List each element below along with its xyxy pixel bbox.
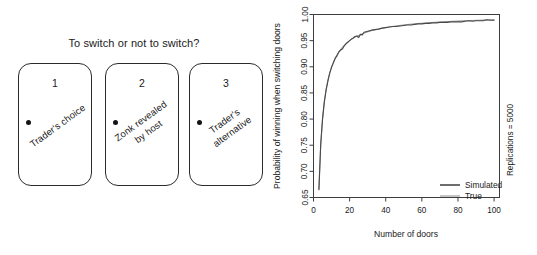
y-tick-label: 0.85 <box>301 85 310 101</box>
doors-diagram-panel: To switch or not to switch? 1 Trader's c… <box>0 0 268 255</box>
series-line-simulated <box>319 20 494 190</box>
replications-annotation: Replications = 5000 <box>506 103 515 176</box>
y-tick-label: 0.95 <box>301 32 310 48</box>
door-number-1: 1 <box>19 77 91 89</box>
y-axis-ticks: 0.650.700.750.800.850.900.951.00 <box>301 6 314 205</box>
y-tick-label: 1.00 <box>301 6 310 22</box>
x-tick-label: 20 <box>345 206 355 215</box>
x-tick-label: 80 <box>453 206 463 215</box>
x-tick-label: 40 <box>381 206 391 215</box>
probability-chart-svg: 0.650.700.750.800.850.900.951.00 0204060… <box>268 0 537 255</box>
door-caption-1: Trader's choice <box>28 102 89 151</box>
y-tick-label: 0.70 <box>301 163 310 179</box>
x-tick-label: 100 <box>487 206 501 215</box>
x-tick-label: 60 <box>417 206 427 215</box>
door-card-3: 3 Trader's alternative <box>189 63 263 186</box>
y-tick-label: 0.75 <box>301 137 310 153</box>
y-axis-title: Probability of winning when switching do… <box>272 23 282 189</box>
door-card-2: 2 Zonk revealed by host <box>105 63 179 186</box>
door-knob-icon-2 <box>113 120 118 125</box>
doors-diagram-title: To switch or not to switch? <box>0 37 268 49</box>
y-tick-label: 0.80 <box>301 111 310 127</box>
door-number-2: 2 <box>106 77 178 89</box>
door-knob-icon-1 <box>26 120 31 125</box>
door-number-3: 3 <box>190 77 262 89</box>
x-axis-title: Number of doors <box>374 229 438 239</box>
legend-label-simulated: Simulated <box>465 180 503 190</box>
legend-label-true: True <box>465 191 482 201</box>
x-tick-label: 0 <box>311 206 316 215</box>
plot-frame <box>314 15 500 198</box>
y-tick-label: 0.90 <box>301 58 310 74</box>
y-tick-label: 0.65 <box>301 189 310 205</box>
monty-hall-figure: To switch or not to switch? 1 Trader's c… <box>0 0 537 255</box>
door-caption-3: Trader's alternative <box>203 103 254 150</box>
door-caption-2: Zonk revealed by host <box>112 98 176 154</box>
probability-chart-panel: 0.650.700.750.800.850.900.951.00 0204060… <box>268 0 537 255</box>
door-knob-icon-3 <box>197 120 202 125</box>
door-card-1: 1 Trader's choice <box>18 63 92 186</box>
